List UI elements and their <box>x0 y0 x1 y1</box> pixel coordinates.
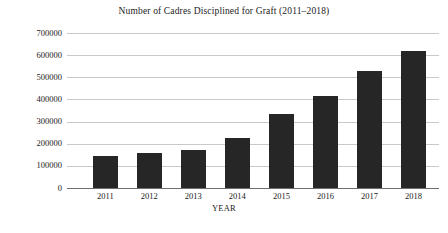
x-tick-label: 2011 <box>83 191 127 202</box>
x-tick-label: 2017 <box>347 191 391 202</box>
y-tick-label: 400000 <box>0 95 62 104</box>
bars-layer <box>67 33 439 188</box>
bar-chart-figure: Number of Cadres Disciplined for Graft (… <box>0 0 448 233</box>
y-tick-label: 200000 <box>0 139 62 148</box>
x-axis-baseline <box>67 188 439 189</box>
y-tick-label: 500000 <box>0 73 62 82</box>
bar <box>313 96 338 188</box>
y-tick-label: 600000 <box>0 51 62 60</box>
bar <box>401 51 426 189</box>
y-tick-label: 700000 <box>0 29 62 38</box>
x-tick-label: 2012 <box>127 191 171 202</box>
x-tick-label: 2014 <box>215 191 259 202</box>
x-tick-label: 2015 <box>259 191 303 202</box>
y-tick-label: 300000 <box>0 117 62 126</box>
y-tick-label: 0 <box>0 184 62 193</box>
y-tick-label: 100000 <box>0 161 62 170</box>
chart-title: Number of Cadres Disciplined for Graft (… <box>0 5 448 17</box>
bar <box>93 156 118 188</box>
bar <box>181 150 206 188</box>
bar <box>269 114 294 188</box>
y-axis-tick-labels: 0100000200000300000400000500000600000700… <box>0 0 62 233</box>
bar <box>225 138 250 188</box>
bar <box>357 71 382 188</box>
x-axis-title: YEAR <box>0 203 448 214</box>
x-tick-label: 2016 <box>303 191 347 202</box>
x-tick-label: 2013 <box>171 191 215 202</box>
bar <box>137 153 162 188</box>
x-tick-label: 2018 <box>391 191 435 202</box>
